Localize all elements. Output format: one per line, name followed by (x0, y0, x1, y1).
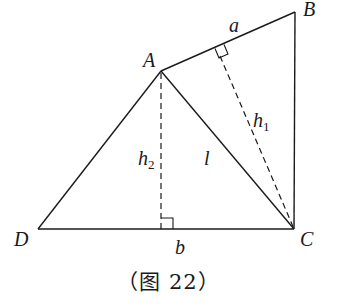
segment-ac (161, 71, 294, 229)
label-h2-main: h (138, 147, 148, 169)
label-side-l: l (204, 147, 210, 169)
segment-bc (294, 12, 295, 229)
label-side-a: a (229, 14, 239, 36)
label-h1: h1 (253, 109, 270, 134)
label-h1-main: h (253, 109, 263, 131)
label-point-d: D (13, 228, 29, 250)
label-point-a: A (141, 49, 156, 71)
altitude-h1 (220, 56, 294, 229)
label-h1-sub: 1 (263, 119, 270, 134)
label-point-c: C (300, 228, 314, 250)
label-side-b: b (175, 236, 185, 258)
geometry-figure: A B C D a b l h1 h2 (0, 0, 337, 307)
label-h2-sub: 2 (148, 157, 155, 172)
figure-caption: （图 22） (0, 265, 337, 295)
segment-ab (161, 12, 295, 71)
right-angle-mark-h2 (161, 218, 173, 229)
label-point-b: B (303, 0, 315, 20)
label-h2: h2 (138, 147, 155, 172)
